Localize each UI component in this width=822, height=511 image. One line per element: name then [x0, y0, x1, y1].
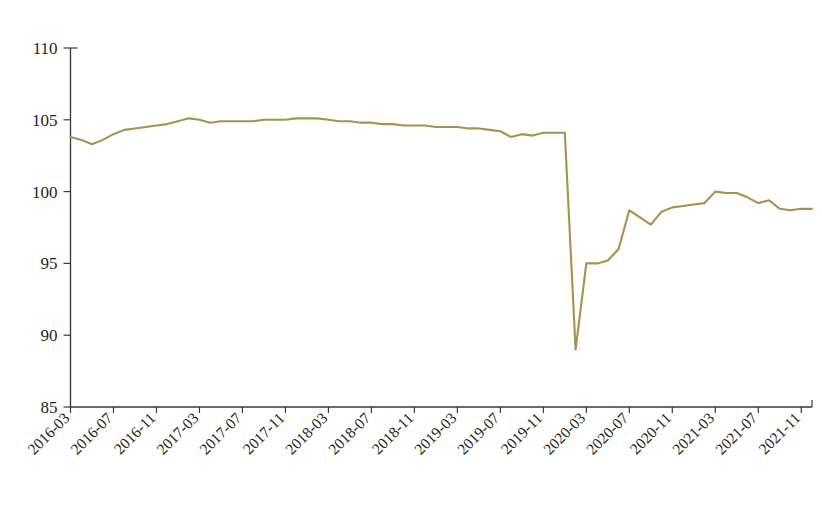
x-tick-label: 2019-11	[497, 409, 545, 457]
x-tick-label: 2021-03	[669, 409, 718, 458]
x-tick-label: 2018-07	[325, 409, 374, 458]
x-tick-label: 2018-11	[368, 409, 416, 457]
x-tick-label: 2021-11	[755, 409, 803, 457]
series-line	[71, 118, 813, 349]
x-tick-label: 2020-03	[540, 409, 589, 458]
axis-lines	[71, 48, 813, 407]
x-tick-label: 2017-07	[196, 409, 245, 458]
x-tick-label: 2019-07	[454, 409, 503, 458]
line-chart-svg: 859095100105110 2016-032016-072016-11201…	[0, 0, 822, 511]
y-axis: 859095100105110	[32, 39, 71, 417]
chart-figure: 859095100105110 2016-032016-072016-11201…	[0, 0, 822, 511]
x-tick-label: 2017-11	[239, 409, 287, 457]
x-tick-label: 2016-07	[67, 409, 116, 458]
x-tick-label: 2019-03	[411, 409, 460, 458]
x-tick-label: 2020-07	[583, 409, 632, 458]
x-axis: 2016-032016-072016-112017-032017-072017-…	[24, 407, 803, 458]
x-tick-label: 2018-03	[282, 409, 331, 458]
data-series	[71, 118, 813, 349]
axis-spine	[71, 48, 813, 407]
x-tick-label: 2020-11	[626, 409, 674, 457]
y-tick-label: 90	[41, 326, 58, 345]
x-tick-label: 2017-03	[153, 409, 202, 458]
y-tick-label: 110	[33, 39, 58, 58]
y-tick-label: 105	[32, 111, 58, 130]
y-tick-label: 95	[41, 254, 58, 273]
x-tick-label: 2021-07	[712, 409, 761, 458]
y-tick-label: 100	[32, 183, 58, 202]
x-tick-label: 2016-11	[110, 409, 158, 457]
